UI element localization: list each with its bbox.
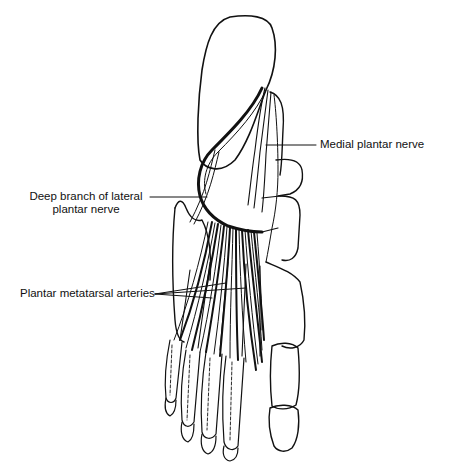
label-deep-branch-line2: plantar nerve bbox=[24, 203, 148, 216]
hallux-distal-phalanx bbox=[269, 405, 299, 451]
cuneiform-2 bbox=[262, 196, 280, 232]
hallux-proximal-phalanx bbox=[271, 343, 300, 409]
leader-lines bbox=[150, 145, 316, 298]
foot-anatomy-diagram: Medial plantar nerve Deep branch of late… bbox=[0, 0, 449, 464]
cuneiform-medial bbox=[280, 196, 300, 261]
foot-illustration bbox=[0, 0, 449, 464]
label-deep-branch-line1: Deep branch of lateral bbox=[24, 190, 148, 203]
label-medial-plantar-nerve: Medial plantar nerve bbox=[320, 138, 424, 151]
label-plantar-metatarsal-arteries: Plantar metatarsal arteries bbox=[20, 287, 155, 300]
lesser-toes bbox=[165, 340, 244, 461]
plantar-metatarsal-arteries-bundle bbox=[180, 222, 264, 370]
talus-bone bbox=[270, 92, 283, 175]
navicular-bone bbox=[276, 159, 303, 196]
label-deep-branch-lateral-plantar-nerve: Deep branch of lateral plantar nerve bbox=[24, 190, 148, 216]
leader-arteries-3 bbox=[155, 294, 212, 298]
cuboid-bone bbox=[175, 201, 211, 280]
medial-plantar-nerve-path bbox=[248, 88, 278, 262]
lateral-plantar-artery bbox=[199, 88, 263, 232]
first-metatarsal bbox=[266, 262, 305, 348]
